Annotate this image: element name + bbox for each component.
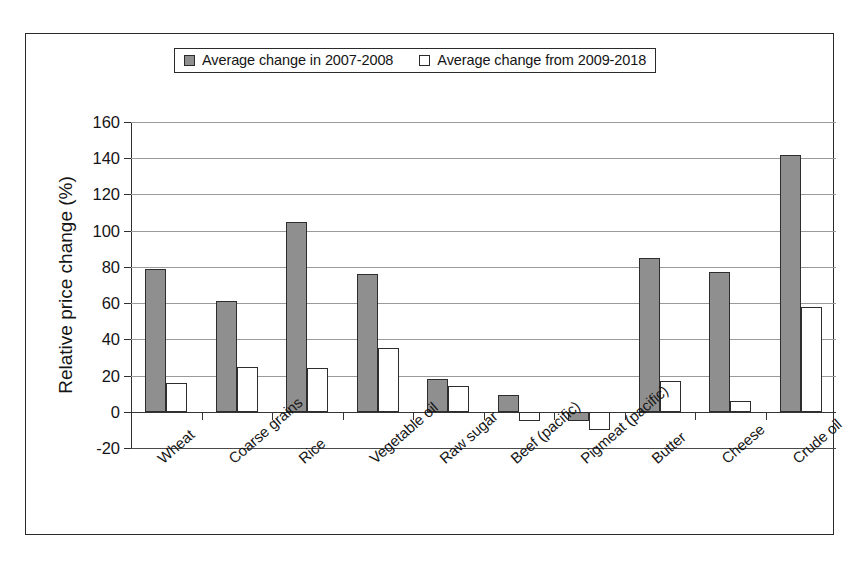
y-axis-title: Relative price change (%): [55, 176, 77, 394]
y-axis-tick-label: 60: [102, 294, 120, 313]
bar-group: [484, 122, 555, 448]
bar: [780, 155, 801, 412]
y-axis-tick-label: 80: [102, 257, 120, 276]
y-axis-tick-mark: [124, 194, 131, 195]
y-axis-tick-mark: [124, 303, 131, 304]
bar: [730, 401, 751, 412]
bar: [519, 412, 540, 421]
legend-entry-series-1: Average change in 2007-2008: [184, 52, 393, 68]
chart-legend: Average change in 2007-2008 Average chan…: [174, 48, 656, 73]
bar-group: [766, 122, 837, 448]
y-axis-tick-label: -20: [96, 439, 120, 458]
y-axis-tick-label: 100: [92, 221, 120, 240]
y-axis-tick-mark: [124, 122, 131, 123]
bar-group: [202, 122, 273, 448]
bar: [166, 383, 187, 412]
y-axis-tick-label: 40: [102, 330, 120, 349]
bar: [801, 307, 822, 412]
bar: [237, 367, 258, 412]
x-axis-tick-mark: [202, 412, 203, 420]
y-axis-tick-label: 120: [92, 185, 120, 204]
bar-group: [695, 122, 766, 448]
y-axis-tick-mark: [124, 412, 131, 413]
x-axis-tick-mark: [695, 412, 696, 420]
bar-group: [343, 122, 414, 448]
bar: [286, 222, 307, 412]
bar: [448, 386, 469, 411]
bar-group: [131, 122, 202, 448]
y-axis-tick-label: 140: [92, 149, 120, 168]
bar: [357, 274, 378, 412]
y-axis-tick-mark: [124, 231, 131, 232]
y-axis-tick-mark: [124, 339, 131, 340]
y-axis-tick-label: 0: [111, 402, 120, 421]
bar-group: [272, 122, 343, 448]
x-axis-tick-mark: [343, 412, 344, 420]
y-axis-tick-label: 160: [92, 113, 120, 132]
x-axis-category-labels: WheatCoarse grainsRiceVegetable oilRaw s…: [131, 448, 836, 564]
legend-swatch-icon: [419, 55, 430, 66]
y-axis-tick-mark: [124, 158, 131, 159]
bar-group: [413, 122, 484, 448]
legend-entry-series-2: Average change from 2009-2018: [419, 52, 646, 68]
legend-label: Average change from 2009-2018: [437, 52, 646, 68]
y-axis-tick-label: 20: [102, 366, 120, 385]
bar: [145, 269, 166, 412]
bar: [307, 368, 328, 411]
x-axis-tick-mark: [766, 412, 767, 420]
y-axis-tick-mark: [124, 267, 131, 268]
y-axis-tick-mark: [124, 376, 131, 377]
legend-label: Average change in 2007-2008: [202, 52, 393, 68]
bar: [378, 348, 399, 411]
bar: [498, 395, 519, 411]
bar-series-container: [131, 122, 836, 448]
legend-swatch-icon: [184, 55, 195, 66]
chart-frame: Average change in 2007-2008 Average chan…: [25, 33, 834, 535]
bar: [709, 272, 730, 411]
plot-area: 160140120100806040200-20: [131, 122, 836, 448]
y-axis-tick-mark: [124, 448, 131, 449]
bar-group: [554, 122, 625, 448]
bar: [216, 301, 237, 411]
